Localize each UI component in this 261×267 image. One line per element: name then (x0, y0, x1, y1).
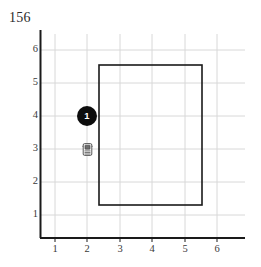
robot-device-icon[interactable] (82, 143, 93, 156)
y-tick-label-6: 6 (22, 43, 38, 54)
y-tick-label-1: 1 (22, 208, 38, 219)
y-tick-label-3: 3 (22, 142, 38, 153)
x-tick-label-2: 2 (79, 243, 95, 254)
y-tick-label-2: 2 (22, 175, 38, 186)
x-tick-label-5: 5 (177, 243, 193, 254)
y-tick-label-5: 5 (22, 76, 38, 87)
node-marker-1[interactable]: 1 (77, 106, 97, 126)
x-tick-label-3: 3 (112, 243, 128, 254)
x-tick-label-6: 6 (209, 243, 225, 254)
marker-layer: 1 (0, 0, 261, 267)
figure-container: 156 (0, 0, 261, 267)
x-tick-label-4: 4 (144, 243, 160, 254)
x-tick-label-1: 1 (47, 243, 63, 254)
y-tick-label-4: 4 (22, 109, 38, 120)
